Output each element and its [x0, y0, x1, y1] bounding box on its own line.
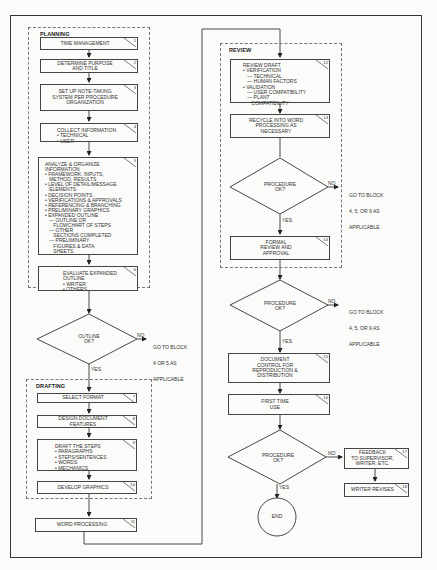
- block-number-tab: 4: [123, 124, 137, 133]
- block-17-feedback[interactable]: FEEDBACK TO SUPERVISOR, WRITER, ETC. 17: [344, 448, 409, 469]
- decision-3-yes-label: YES: [282, 339, 292, 344]
- block-14-formal-review[interactable]: FORMAL REVIEW AND APPROVAL 14: [230, 236, 330, 260]
- block-text: AND TITLE: [45, 66, 125, 71]
- block-number-tab: 18: [394, 484, 408, 493]
- block-text: FEATURES: [42, 422, 124, 427]
- block-number-tab: 2: [123, 60, 137, 69]
- target-text: 4 OR 5 AS: [153, 361, 187, 366]
- block-15-document-control[interactable]: DOCUMENT CONTROL FOR REPRODUCTION & DIST…: [228, 353, 330, 383]
- block-number-tab: 9: [122, 440, 136, 449]
- block-number-tab: 6: [123, 267, 137, 276]
- block-16-first-time-use[interactable]: FIRST TIME USE 16: [228, 394, 330, 415]
- block-7-select-format[interactable]: SELECT FORMAT 7: [37, 393, 137, 403]
- decision-2-no-label: NO: [328, 181, 336, 186]
- block-number: 8: [133, 416, 135, 421]
- block-text: DEVELOP GRAPHICS: [42, 485, 124, 490]
- decision-1-yes-label: YES: [91, 367, 101, 372]
- decision-1-no-target: GO TO BLOCK 4 OR 5 AS APPLICABLE: [153, 334, 187, 388]
- block-13-recycle[interactable]: RECYCLE INTO WORD PROCESSING AS NECESSAR…: [230, 114, 330, 138]
- block-text: • USER: [57, 139, 125, 144]
- review-group-title: REVIEW: [229, 47, 251, 53]
- block-number-tab: 8: [122, 416, 136, 425]
- block-text: ORGANIZATION: [45, 100, 125, 105]
- decision-outline-ok: OUTLINE OK?: [59, 334, 119, 345]
- block-number: 13: [323, 115, 328, 120]
- block-number: 4: [134, 124, 136, 129]
- block-number: 6: [134, 267, 136, 272]
- decision-procedure-ok-1: PROCEDURE OK?: [250, 182, 310, 193]
- decision-2-yes-label: YES: [282, 218, 292, 223]
- block-text: • OTHERS: [63, 287, 125, 292]
- target-text: APPLICABLE: [153, 377, 187, 382]
- decision-3-no-label: NO: [328, 299, 336, 304]
- block-number: 15: [323, 354, 328, 359]
- block-text: APPROVAL: [235, 251, 317, 256]
- decision-text: OK?: [248, 458, 308, 463]
- block-number-tab: 1: [123, 38, 137, 47]
- block-text: TIME MANAGEMENT: [45, 41, 125, 46]
- block-text: NECESSARY: [235, 129, 317, 134]
- block-5-analyze-organize[interactable]: ANALYZE & ORGANIZE INFORMATION • FRAMEWO…: [38, 157, 138, 255]
- block-18-writer-revises[interactable]: WRITER REVISES 18: [344, 483, 409, 497]
- block-number: 10: [130, 482, 135, 487]
- block-6-evaluate-outline[interactable]: EVALUATE EXPANDED OUTLINE • WRITER • OTH…: [38, 266, 138, 291]
- block-8-design-features[interactable]: DESIGN DOCUMENT FEATURES 8: [37, 415, 137, 428]
- decision-2-no-target: GO TO BLOCK 4, 5, OR 9 AS APPLICABLE: [349, 182, 383, 236]
- target-text: APPLICABLE: [349, 342, 383, 347]
- block-number-tab: 14: [315, 237, 329, 246]
- block-number-tab: 12: [315, 60, 329, 69]
- target-text: 4, 5, OR 9 AS: [349, 326, 383, 331]
- decision-4-yes-label: YES: [279, 485, 289, 490]
- block-number: 18: [402, 484, 407, 489]
- end-terminal: END: [262, 514, 292, 519]
- block-number: 9: [133, 440, 135, 445]
- decision-procedure-ok-3: PROCEDURE OK?: [248, 453, 308, 464]
- block-number-tab: 10: [122, 482, 136, 491]
- target-text: GO TO BLOCK: [349, 193, 383, 198]
- block-number: 3: [134, 85, 136, 90]
- block-number-tab: 3: [123, 85, 137, 94]
- block-text: WRITER, ETC.: [349, 461, 396, 466]
- block-number-tab: 13: [315, 115, 329, 124]
- decision-1-no-label: NO: [137, 333, 145, 338]
- block-text: WORD PROCESSING: [40, 522, 124, 527]
- block-12-review-draft[interactable]: REVIEW DRAFT • VERIFICATION — TECHNICAL …: [230, 59, 330, 103]
- block-10-develop-graphics[interactable]: DEVELOP GRAPHICS 10: [37, 481, 137, 494]
- block-9-draft-steps[interactable]: DRAFT THE STEPS • PARAGRAPHS • STEPS/SEN…: [37, 439, 137, 471]
- block-number: 7: [133, 394, 135, 399]
- block-number: 14: [323, 237, 328, 242]
- block-2-determine-purpose[interactable]: DETERMINE PURPOSE AND TITLE 2: [40, 59, 138, 73]
- block-text: SHEETS: [45, 249, 125, 254]
- block-number-tab: 17: [394, 449, 408, 458]
- block-text: USE: [233, 405, 317, 410]
- target-text: GO TO BLOCK: [349, 310, 383, 315]
- decision-3-no-target: GO TO BLOCK 4, 5, OR 9 AS APPLICABLE: [349, 299, 383, 353]
- block-number: 5: [134, 158, 136, 163]
- decision-text: OK?: [59, 339, 119, 344]
- target-text: APPLICABLE: [349, 225, 383, 230]
- block-number: 16: [323, 395, 328, 400]
- block-number: 17: [402, 449, 407, 454]
- drafting-group-title: DRAFTING: [36, 383, 65, 389]
- block-3-note-taking[interactable]: SET UP NOTE-TAKING SYSTEM PER PROCEDURE …: [40, 84, 138, 111]
- block-number: 11: [131, 519, 135, 524]
- block-number-tab: 7: [122, 394, 136, 403]
- target-text: GO TO BLOCK: [153, 345, 187, 350]
- block-number-tab: 15: [315, 354, 329, 363]
- block-number: 2: [134, 60, 136, 65]
- block-11-word-processing[interactable]: WORD PROCESSING 11: [35, 518, 137, 532]
- decision-text: OK?: [250, 306, 310, 311]
- block-number-tab: 16: [315, 395, 329, 404]
- block-text: DISTRIBUTION: [233, 373, 317, 378]
- block-4-collect-information[interactable]: COLLECT INFORMATION • TECHNICAL • USER 4: [40, 123, 138, 142]
- block-number: 12: [323, 60, 328, 65]
- block-number: 1: [134, 38, 136, 43]
- block-1-time-management[interactable]: TIME MANAGEMENT 1: [40, 37, 138, 50]
- block-number-tab: 11: [122, 519, 136, 528]
- block-text: • MECHANICS: [55, 466, 124, 471]
- decision-4-no-label: NO: [328, 451, 336, 456]
- block-number-tab: 5: [123, 158, 137, 167]
- block-text: COMPATIBILITY: [243, 101, 317, 106]
- block-text: SELECT FORMAT: [42, 395, 124, 400]
- block-text: WRITER REVISES: [349, 487, 396, 492]
